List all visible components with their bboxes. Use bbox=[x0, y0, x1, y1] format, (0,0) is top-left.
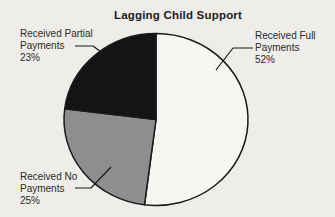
label-line: Received No bbox=[20, 171, 77, 183]
label-percent: 25% bbox=[20, 195, 77, 207]
label-received-no-payments: Received No Payments 25% bbox=[20, 171, 77, 207]
label-received-full-payments: Received Full Payments 52% bbox=[255, 30, 316, 66]
label-percent: 23% bbox=[20, 52, 93, 64]
label-line: Payments bbox=[20, 183, 77, 195]
label-line: Payments bbox=[20, 40, 93, 52]
label-line: Received Partial bbox=[20, 28, 93, 40]
chart-figure: Lagging Child Support Received Partial P… bbox=[0, 0, 335, 217]
pie-slice-received-no-payments bbox=[64, 109, 156, 205]
label-line: Payments bbox=[255, 42, 316, 54]
label-received-partial-payments: Received Partial Payments 23% bbox=[20, 28, 93, 64]
pie-slice-received-full-payments bbox=[144, 34, 248, 206]
label-line: Received Full bbox=[255, 30, 316, 42]
label-percent: 52% bbox=[255, 54, 316, 66]
